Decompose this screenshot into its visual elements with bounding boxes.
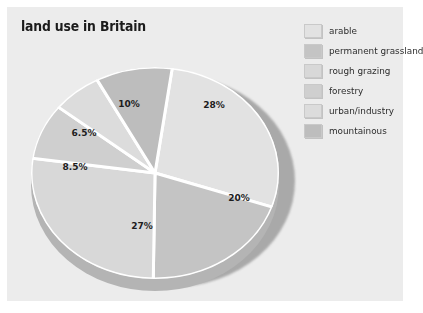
slice-value-label: 20% bbox=[228, 192, 250, 203]
pie-chart: 28%20%27%8.5%6.5%10% bbox=[19, 59, 299, 307]
legend: arable permanent grassland rough grazing… bbox=[297, 21, 423, 141]
legend-item-label: urban/industry bbox=[329, 106, 394, 116]
legend-item-label: forestry bbox=[329, 86, 363, 96]
legend-item-rough-grazing[interactable]: rough grazing bbox=[297, 61, 423, 81]
legend-swatch-icon bbox=[304, 24, 322, 38]
chart-panel: land use in Britain arable permanent gra… bbox=[7, 7, 403, 301]
slice-value-label: 6.5% bbox=[71, 127, 96, 138]
legend-item-label: permanent grassland bbox=[329, 46, 423, 56]
slice-value-label: 27% bbox=[131, 220, 153, 231]
legend-swatch-icon bbox=[304, 104, 322, 118]
legend-item-label: rough grazing bbox=[329, 66, 390, 76]
legend-item-mountainous[interactable]: mountainous bbox=[297, 121, 423, 141]
pie-top-face bbox=[31, 67, 279, 279]
slice-value-label: 28% bbox=[203, 99, 225, 110]
legend-swatch-icon bbox=[304, 124, 322, 138]
legend-swatch-icon bbox=[304, 84, 322, 98]
slice-value-label: 10% bbox=[118, 98, 140, 109]
legend-item-label: mountainous bbox=[329, 126, 387, 136]
legend-item-arable[interactable]: arable bbox=[297, 21, 423, 41]
legend-swatch-icon bbox=[304, 64, 322, 78]
legend-swatch-icon bbox=[304, 44, 322, 58]
legend-item-forestry[interactable]: forestry bbox=[297, 81, 423, 101]
slice-value-label: 8.5% bbox=[62, 161, 87, 172]
legend-item-urban-industry[interactable]: urban/industry bbox=[297, 101, 423, 121]
legend-item-label: arable bbox=[329, 26, 357, 36]
pie-slices bbox=[31, 67, 279, 279]
legend-item-permanent-grassland[interactable]: permanent grassland bbox=[297, 41, 423, 61]
page-title: land use in Britain bbox=[21, 18, 146, 34]
